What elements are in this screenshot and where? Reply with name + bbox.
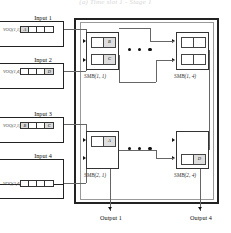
- wire-smb11-out-bottom: [119, 82, 156, 83]
- output-label-1: Output 1: [86, 214, 136, 221]
- ellipsis-dot: [138, 48, 141, 51]
- voq-cell: [37, 27, 45, 32]
- voq-label-2: VOQ(1,4): [3, 69, 20, 74]
- arrow-output1: [108, 207, 112, 210]
- smb-cell: [92, 55, 104, 64]
- voq-cell: B: [21, 123, 29, 128]
- voq-cell: D: [45, 69, 53, 74]
- ellipsis-dots-row-1: [128, 48, 152, 51]
- input-label-4: Input 4: [18, 152, 68, 159]
- smb-cell: [92, 38, 104, 47]
- voq-label-3: VOQ(2,1): [3, 123, 20, 128]
- wire-smb14-to-bottom: [209, 50, 210, 150]
- voq-cell: [37, 69, 45, 74]
- smb-cell: [194, 38, 205, 47]
- ellipsis-dot: [148, 48, 151, 51]
- figure-caption-top: (a) Time slot 1 - Stage 1: [0, 0, 231, 6]
- wire-to-smb14-bottom: [156, 60, 174, 61]
- voq-cells-1: A: [20, 26, 54, 33]
- ellipsis-dot: [128, 48, 131, 51]
- wire-to-smb24: [156, 158, 174, 159]
- voq-cells-4: [20, 180, 54, 187]
- voq-cell: [21, 181, 29, 186]
- input-label-3: Input 3: [18, 110, 68, 117]
- smb-slot: A: [91, 136, 116, 147]
- wire-smb11-out-top: [119, 28, 150, 29]
- input-bracket-2: [0, 63, 64, 89]
- wire-input1-to-fabric: [64, 29, 86, 30]
- smb-block-2-1: A: [86, 131, 119, 169]
- voq-row-2: VOQ(1,4) D: [3, 68, 54, 75]
- wire-to-smb14-top: [150, 41, 174, 42]
- input-label-1: Input 1: [18, 14, 68, 21]
- input-bracket-3: [0, 117, 64, 143]
- wire-smb11-drop: [119, 55, 120, 82]
- smb-cell: [92, 137, 104, 146]
- wire-input2-to-fabric: [64, 71, 86, 72]
- smb-slot: B: [91, 37, 116, 48]
- voq-cell: [37, 123, 45, 128]
- smb-block-2-4: D: [176, 131, 209, 169]
- input-bracket-1: [0, 21, 64, 47]
- voq-cell: [45, 27, 53, 32]
- smb-cell: C: [104, 55, 115, 64]
- voq-cell: A: [21, 27, 29, 32]
- smb-block-1-1: B C: [86, 32, 119, 70]
- voq-label-4: VOQ(2,4): [3, 181, 20, 186]
- smb-label-1-1: SMB(1, 1): [84, 73, 106, 79]
- smb-cell: [182, 155, 194, 164]
- ellipsis-dots-row-2: [128, 147, 152, 150]
- smb-slot: [181, 37, 206, 48]
- wire-smb24-vertical: [156, 150, 157, 158]
- voq-cells-2: D: [20, 68, 54, 75]
- wire-output4: [200, 169, 201, 211]
- ellipsis-dot: [138, 147, 141, 150]
- voq-cell: C: [45, 123, 53, 128]
- voq-cell: [29, 69, 37, 74]
- arrow-smb24-in-top: [172, 138, 175, 142]
- smb-cell: A: [104, 137, 115, 146]
- output-label-4: Output 4: [176, 214, 226, 221]
- voq-cell: [21, 69, 29, 74]
- smb-label-1-4: SMB(1, 4): [174, 73, 196, 79]
- ellipsis-dot: [148, 147, 151, 150]
- smb-slot: [181, 54, 206, 65]
- ellipsis-dot: [128, 147, 131, 150]
- wire-smb14-top-vertical: [150, 28, 151, 41]
- smb-block-1-4: [176, 32, 209, 70]
- voq-row-3: VOQ(2,1) B C: [3, 122, 54, 129]
- smb-cell: [182, 38, 194, 47]
- voq-cell: [29, 181, 37, 186]
- smb-slot: C: [91, 54, 116, 65]
- wire-input3-to-fabric: [64, 124, 86, 125]
- arrow-output4: [198, 207, 202, 210]
- smb-label-2-1: SMB(2, 1): [84, 172, 106, 178]
- wire-input4-to-fabric: [64, 183, 86, 184]
- smb-label-2-4: SMB(2, 4): [174, 172, 196, 178]
- voq-label-1: VOQ(1,1): [3, 27, 20, 32]
- smb-slot: D: [181, 154, 206, 165]
- input-label-2: Input 2: [18, 56, 68, 63]
- voq-cell: [45, 181, 53, 186]
- smb-cell: B: [104, 38, 115, 47]
- voq-row-1: VOQ(1,1) A: [3, 26, 54, 33]
- wire-smb14-bottom-vertical: [156, 60, 157, 82]
- smb-cell: D: [194, 155, 205, 164]
- voq-cell: [29, 27, 37, 32]
- voq-cell: [29, 123, 37, 128]
- voq-cell: [37, 181, 45, 186]
- voq-cells-3: B C: [20, 122, 54, 129]
- smb-cell: [194, 55, 205, 64]
- voq-row-4: VOQ(2,4): [3, 180, 54, 187]
- smb-cell: [182, 55, 194, 64]
- figure-canvas: (a) Time slot 1 - Stage 1 Input 1 VOQ(1,…: [0, 0, 231, 233]
- wire-output1: [110, 169, 111, 211]
